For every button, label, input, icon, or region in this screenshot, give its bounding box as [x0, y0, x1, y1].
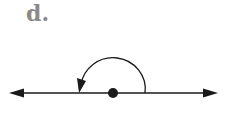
- center-point: [108, 88, 118, 98]
- right-arrowhead-icon: [203, 89, 218, 98]
- rotation-arrow: [77, 58, 145, 93]
- left-arrowhead-icon: [9, 89, 24, 98]
- rotation-arrowhead-icon: [77, 78, 86, 93]
- number-line-diagram: [0, 0, 242, 119]
